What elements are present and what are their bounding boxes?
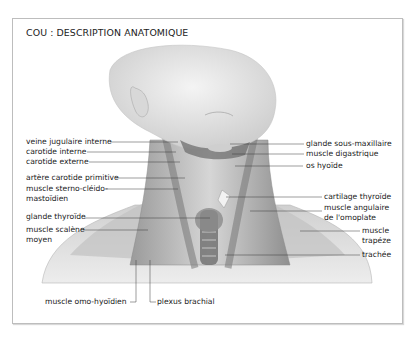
label-carotide-externe: carotide externe [26, 157, 89, 166]
label-muscle-trapeze-1: muscle [362, 226, 389, 235]
label-muscle-scalene-moyen-2: moyen [26, 235, 52, 244]
label-carotide-interne: carotide interne [26, 147, 86, 156]
label-glande-sous-maxillaire: glande sous-maxillaire [306, 139, 392, 148]
label-veine-jugulaire-interne: veine jugulaire interne [26, 137, 112, 146]
label-artere-carotide-primitive: artère carotide primitive [26, 173, 119, 182]
label-muscle-angulaire-omoplate-2: de l'omoplate [324, 213, 376, 222]
label-plexus-brachial: plexus brachial [157, 297, 215, 306]
label-muscle-trapeze-2: trapéze [362, 236, 391, 245]
label-glande-thyroide: glande thyroïde [26, 212, 86, 221]
label-muscle-digastrique: muscle digastrique [306, 149, 378, 158]
neck-anatomy-illustration [0, 0, 416, 339]
label-os-hyoide: os hyoïde [306, 161, 343, 170]
label-muscle-scalene-moyen-1: muscle scalène [26, 225, 85, 234]
label-cartilage-thyroide: cartilage thyroïde [324, 192, 391, 201]
page-title: COU : DESCRIPTION ANATOMIQUE [26, 27, 188, 38]
label-muscle-sterno-cleido-mastoidien-1: muscle sterno-cléido- [26, 184, 108, 193]
label-trachee: trachée [362, 250, 391, 259]
label-muscle-angulaire-omoplate-1: muscle angulaire [324, 203, 389, 212]
label-muscle-sterno-cleido-mastoidien-2: mastoïdien [26, 194, 68, 203]
label-muscle-omo-hyoidien: muscle omo-hyoïdien [45, 297, 127, 306]
